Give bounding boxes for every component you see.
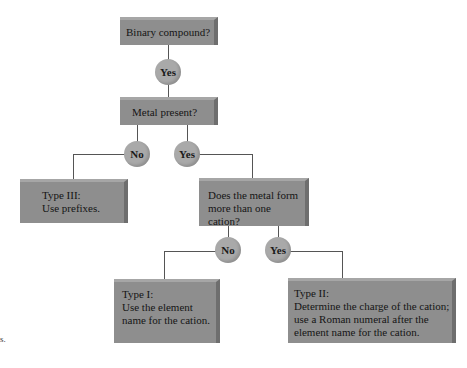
edge-label-text: No [130, 148, 143, 160]
connector-yes-multi-v [252, 154, 253, 180]
node-metal-present: Metal present? [120, 97, 218, 125]
node-title: Type III: [42, 189, 100, 202]
edge-label-text: Yes [270, 244, 286, 256]
node-title: Type II: [294, 287, 449, 300]
node-text-line: element name for the cation. [294, 326, 449, 339]
connector-no-type1-v [164, 251, 165, 281]
edge-label-no: No [124, 141, 150, 167]
connector-no-type3-h [73, 154, 126, 155]
edge-label-no: No [215, 237, 241, 263]
node-type-2: Type II: Determine the charge of the cat… [288, 278, 456, 343]
connector-no-type3-v [73, 154, 74, 180]
node-text-line: use a Roman numeral after the [294, 313, 449, 326]
node-multi-cation: Does the metal form more than one cation… [199, 178, 309, 226]
node-text-line: Determine the charge of the cation; [294, 300, 449, 313]
node-title: Type I: [122, 288, 210, 301]
node-text: Use prefixes. [42, 202, 100, 215]
node-label: Metal present? [132, 106, 197, 119]
node-label: Binary compound? [126, 26, 210, 39]
node-text-line: Does the metal form [208, 189, 305, 202]
edge-label-text: No [221, 244, 234, 256]
connector-yes-type2-h [290, 251, 342, 252]
connector-yes-multi-h [199, 154, 252, 155]
connector-no-type1-h [164, 251, 217, 252]
connector-yes-metal [168, 84, 169, 98]
edge-label-text: Yes [160, 66, 176, 78]
edge-label-yes: Yes [174, 141, 200, 167]
connector-binary-yes [168, 44, 169, 60]
edge-label-yes: Yes [265, 237, 291, 263]
node-text-line: more than one cation? [208, 202, 305, 228]
node-binary-compound: Binary compound? [120, 17, 218, 45]
node-text-line: name for the cation. [122, 314, 210, 327]
connector-yes-type2-v [342, 251, 343, 281]
edge-label-text: Yes [179, 148, 195, 160]
edge-label-yes: Yes [155, 59, 181, 85]
node-text-line: Use the element [122, 301, 210, 314]
node-type-3: Type III: Use prefixes. [20, 179, 128, 223]
cropped-caption-fragment: s. [0, 334, 6, 344]
node-type-1: Type I: Use the element name for the cat… [114, 279, 220, 343]
